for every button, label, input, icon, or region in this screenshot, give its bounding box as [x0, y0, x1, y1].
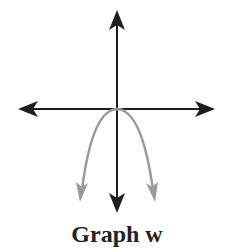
graph-caption: Graph w [0, 220, 234, 248]
graph-w-diagram [0, 0, 234, 249]
